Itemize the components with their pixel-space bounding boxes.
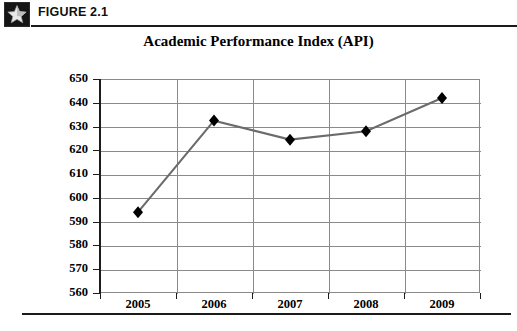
y-axis-tick — [93, 103, 99, 104]
y-axis-tick — [93, 269, 99, 270]
y-axis-label: 600 — [48, 190, 88, 205]
x-axis-label: 2008 — [328, 297, 404, 312]
y-axis-label: 560 — [48, 285, 88, 300]
y-axis-tick — [93, 198, 99, 199]
x-axis-label: 2006 — [176, 297, 252, 312]
data-point-marker — [361, 125, 371, 137]
y-axis-tick — [93, 293, 99, 294]
x-axis-label: 2005 — [100, 297, 176, 312]
x-axis-tick — [480, 293, 481, 299]
y-axis-label: 580 — [48, 237, 88, 252]
y-axis-label: 620 — [48, 142, 88, 157]
x-axis-label: 2007 — [252, 297, 328, 312]
figure-bottom-divider — [22, 313, 511, 315]
y-axis-tick — [93, 245, 99, 246]
y-axis-tick — [93, 127, 99, 128]
y-axis-label: 570 — [48, 261, 88, 276]
y-axis-tick — [93, 222, 99, 223]
y-axis-label: 650 — [48, 71, 88, 86]
data-point-marker — [437, 92, 447, 104]
y-axis-tick — [93, 150, 99, 151]
y-axis-label: 630 — [48, 119, 88, 134]
data-point-marker — [285, 134, 295, 146]
y-axis-tick — [93, 174, 99, 175]
y-axis-tick — [93, 79, 99, 80]
chart-plot: 6506406306206106005905805705602005200620… — [0, 0, 517, 331]
y-axis-label: 590 — [48, 214, 88, 229]
x-axis-label: 2009 — [404, 297, 480, 312]
y-axis-label: 640 — [48, 95, 88, 110]
line-series — [100, 79, 480, 293]
y-axis-label: 610 — [48, 166, 88, 181]
series-line — [138, 98, 442, 212]
